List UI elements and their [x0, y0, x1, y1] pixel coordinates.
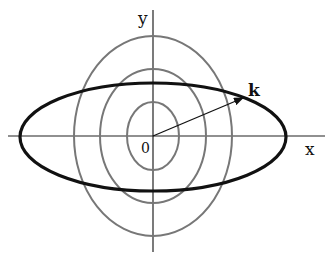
ellipse-contour-diagram [0, 0, 332, 261]
y-axis-label: y [138, 10, 148, 27]
vector-k-arrow [153, 98, 243, 136]
x-axis-label: x [305, 141, 315, 158]
vector-k-label: k [248, 82, 260, 99]
origin-label: 0 [141, 141, 150, 155]
